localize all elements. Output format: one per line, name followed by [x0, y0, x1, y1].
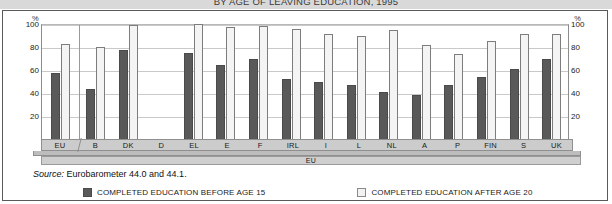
- category-label: A: [408, 139, 441, 151]
- category-label: L: [342, 139, 375, 151]
- bar-before: [249, 59, 258, 140]
- bar-group: [275, 25, 308, 140]
- y-tick-left-20: 20: [30, 113, 39, 121]
- bar-group: [470, 25, 503, 140]
- category-label: NL: [375, 139, 408, 151]
- chart-legend: COMPLETED EDUCATION BEFORE AGE 15 COMPLE…: [33, 186, 593, 198]
- category-label: B: [79, 139, 112, 151]
- eu-separator: [79, 25, 80, 141]
- category-label: FIN: [474, 139, 507, 151]
- category-label: D: [145, 139, 178, 151]
- bar-after: [96, 47, 105, 140]
- bar-after: [487, 41, 496, 140]
- legend-swatch-before-icon: [83, 188, 92, 197]
- bar-before: [444, 85, 453, 140]
- bar-before: [216, 65, 225, 140]
- category-label: EU: [41, 139, 79, 151]
- category-label: UK: [540, 139, 573, 151]
- bar-before: [412, 95, 421, 140]
- bar-before: [119, 50, 128, 140]
- bar-after: [226, 27, 235, 140]
- legend-label-after: COMPLETED EDUCATION AFTER AGE 20: [371, 188, 532, 197]
- bar-after: [357, 36, 366, 140]
- category-label: I: [309, 139, 342, 151]
- bar-group: [242, 25, 275, 140]
- bar-after: [61, 44, 70, 140]
- bar-group: [307, 25, 340, 140]
- bar-after: [422, 45, 431, 140]
- chart-title-band: BY AGE OF LEAVING EDUCATION, 1995: [0, 0, 612, 9]
- bar-before: [86, 89, 95, 140]
- bar-after: [520, 34, 529, 140]
- legend-label-before: COMPLETED EDUCATION BEFORE AGE 15: [97, 188, 265, 197]
- bar-group: [79, 25, 112, 140]
- y-tick-right-60: 60: [571, 67, 580, 75]
- bar-after: [259, 26, 268, 140]
- category-label: E: [211, 139, 244, 151]
- y-tick-right-40: 40: [571, 90, 580, 98]
- y-tick-right-20: 20: [571, 113, 580, 121]
- category-label: DK: [112, 139, 145, 151]
- bar-after: [129, 25, 138, 140]
- bar-before: [314, 82, 323, 140]
- bar-before: [510, 69, 519, 140]
- bar-group: [340, 25, 373, 140]
- bar-before: [184, 53, 193, 140]
- bar-groups: [42, 25, 568, 140]
- legend-item-after: COMPLETED EDUCATION AFTER AGE 20: [357, 188, 532, 197]
- bar-group: [535, 25, 568, 140]
- plot-area: % % 100 80 60 40 20 100 80 60 40 20: [3, 11, 607, 157]
- bar-group: [405, 25, 438, 140]
- bar-after: [292, 29, 301, 140]
- bar-after: [324, 34, 333, 140]
- source-prefix: Source:: [33, 169, 64, 179]
- bar-before: [542, 59, 551, 140]
- bar-group: [373, 25, 406, 140]
- bar-before: [51, 73, 60, 140]
- plot-canvas: 100 80 60 40 20 100 80 60 40 20: [41, 24, 569, 140]
- chart-title: BY AGE OF LEAVING EDUCATION, 1995: [0, 0, 612, 7]
- y-tick-right-80: 80: [571, 44, 580, 52]
- y-tick-left-100: 100: [26, 21, 39, 29]
- y-tick-left-40: 40: [30, 90, 39, 98]
- legend-swatch-after-icon: [357, 188, 366, 197]
- bar-group: [145, 25, 178, 140]
- category-label: EL: [178, 139, 211, 151]
- chart-panel: % % 100 80 60 40 20 100 80 60 40 20: [2, 10, 608, 201]
- bar-group: [503, 25, 536, 140]
- bar-after: [552, 34, 561, 140]
- source-note: Source: Eurobarometer 44.0 and 44.1.: [33, 169, 187, 179]
- bar-group: [112, 25, 145, 140]
- source-text: Eurobarometer 44.0 and 44.1.: [67, 169, 187, 179]
- eu-group-band-label: EU: [306, 157, 316, 164]
- bar-group: [438, 25, 471, 140]
- bar-after: [194, 24, 203, 140]
- eu-group-band: EU: [41, 156, 581, 165]
- chart-figure: BY AGE OF LEAVING EDUCATION, 1995 % % 10…: [0, 0, 612, 204]
- bar-before: [282, 79, 291, 140]
- category-label: F: [244, 139, 277, 151]
- bar-before: [379, 92, 388, 140]
- bar-after: [454, 54, 463, 140]
- y-tick-left-60: 60: [30, 67, 39, 75]
- y-tick-right-100: 100: [571, 21, 584, 29]
- y-tick-left-80: 80: [30, 44, 39, 52]
- legend-item-before: COMPLETED EDUCATION BEFORE AGE 15: [83, 188, 265, 197]
- category-label: IRL: [277, 139, 310, 151]
- category-labels: EUBDKDELEFIRLILNLAPFINSUK: [41, 139, 573, 151]
- bar-before: [477, 77, 486, 140]
- bar-before: [347, 85, 356, 140]
- bar-group: [177, 25, 210, 140]
- category-axis-plinth: EUBDKDELEFIRLILNLAPFINSUK: [33, 139, 581, 156]
- bar-group: [42, 25, 79, 140]
- bar-group: [210, 25, 243, 140]
- bar-after: [389, 30, 398, 140]
- category-label: S: [507, 139, 540, 151]
- category-label: P: [441, 139, 474, 151]
